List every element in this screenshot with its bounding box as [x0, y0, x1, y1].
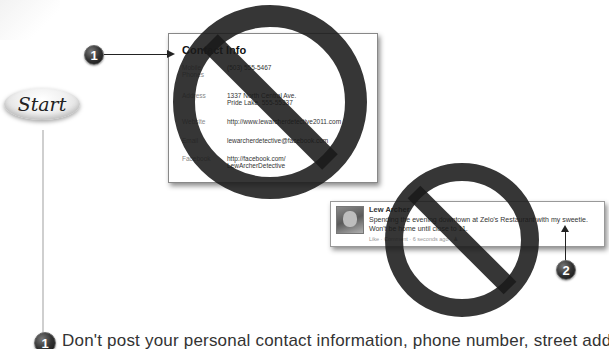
arrow-head-icon: [167, 50, 175, 58]
contact-value: (503) 555-5467: [227, 64, 271, 71]
avatar: [336, 206, 364, 234]
contact-info-card: Contact Info Mobile Phones (503) 555-546…: [168, 33, 378, 183]
arrow-head-icon: [561, 225, 569, 232]
corner-decoration: [0, 0, 60, 40]
people-icon: ♟: [453, 236, 458, 242]
callout-arrow-1: [104, 54, 168, 55]
contact-info-title: Contact Info: [182, 44, 246, 56]
timeline-line: [42, 130, 44, 336]
callout-badge-1: 1: [84, 45, 104, 65]
post-author[interactable]: Lew Archer: [369, 205, 410, 214]
post-footer-text[interactable]: Like · Comment · 6 seconds ago ·: [369, 236, 453, 242]
start-label: Start: [18, 93, 67, 115]
contact-value: 1337 North Central Ave. Pride Lake, 555-…: [227, 92, 307, 106]
contact-label: Address: [182, 92, 222, 99]
contact-value[interactable]: lewarcherdetective@facebook.com: [227, 137, 328, 144]
contact-value[interactable]: http://www.lewarcherdetective2011.com: [227, 118, 341, 125]
tip-text: Don't post your personal contact informa…: [62, 331, 609, 349]
contact-label: Facebook: [182, 155, 222, 162]
contact-value[interactable]: http://facebook.com/ LewArcherDetective: [227, 155, 307, 169]
contact-label: Mobile Phones: [182, 64, 222, 78]
callout-badge-2: 2: [556, 260, 576, 280]
facebook-post-card: Lew Archer Spending the evening downtown…: [330, 201, 605, 247]
contact-label: Email: [182, 137, 222, 144]
post-footer: Like · Comment · 6 seconds ago · ♟: [369, 236, 458, 242]
contact-label: Website: [182, 118, 222, 125]
tip-number-badge: 1: [34, 332, 56, 349]
callout-arrow-2: [565, 231, 566, 261]
start-badge: Start: [4, 88, 80, 120]
